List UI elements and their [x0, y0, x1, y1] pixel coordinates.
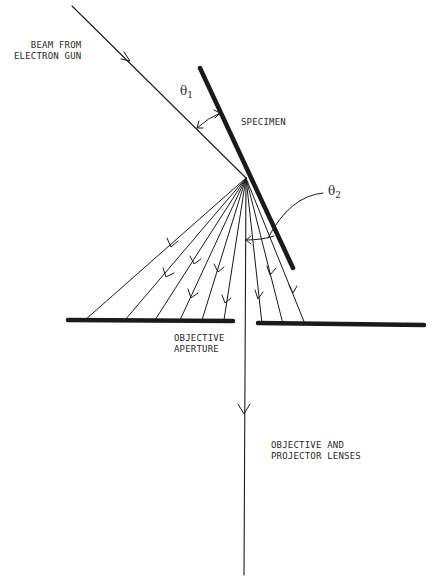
specimen-label: SPECIMEN	[241, 117, 286, 128]
scattered-ray	[246, 178, 283, 324]
scattered-ray	[180, 178, 246, 320]
theta1-label: θ1	[180, 84, 193, 100]
theta2-label: θ2	[328, 184, 341, 200]
central-ray	[244, 178, 246, 575]
scattered-ray	[202, 178, 246, 320]
specimen-plate	[200, 68, 293, 268]
aperture-label: OBJECTIVE APERTURE	[174, 333, 225, 355]
scattered-ray	[125, 178, 246, 320]
central-ray-arrow-icon	[238, 404, 250, 414]
aperture-bar-left	[68, 320, 233, 321]
incident-beam	[72, 6, 246, 178]
ray-arrow-icon	[188, 289, 198, 298]
aperture-bar-right	[258, 323, 424, 325]
scattered-ray	[246, 178, 305, 324]
ray-arrow-icon	[222, 295, 231, 303]
theta1-subscript: 1	[187, 90, 193, 100]
theta1-angle-arc	[197, 113, 220, 128]
theta2-subscript: 2	[335, 190, 341, 200]
lenses-label: OBJECTIVE AND PROJECTOR LENSES	[271, 440, 361, 462]
scattered-ray	[155, 178, 246, 320]
scattered-ray	[85, 178, 246, 320]
beam-source-label: BEAM FROM ELECTRON GUN	[14, 40, 81, 62]
electron-diffraction-diagram	[0, 0, 446, 581]
